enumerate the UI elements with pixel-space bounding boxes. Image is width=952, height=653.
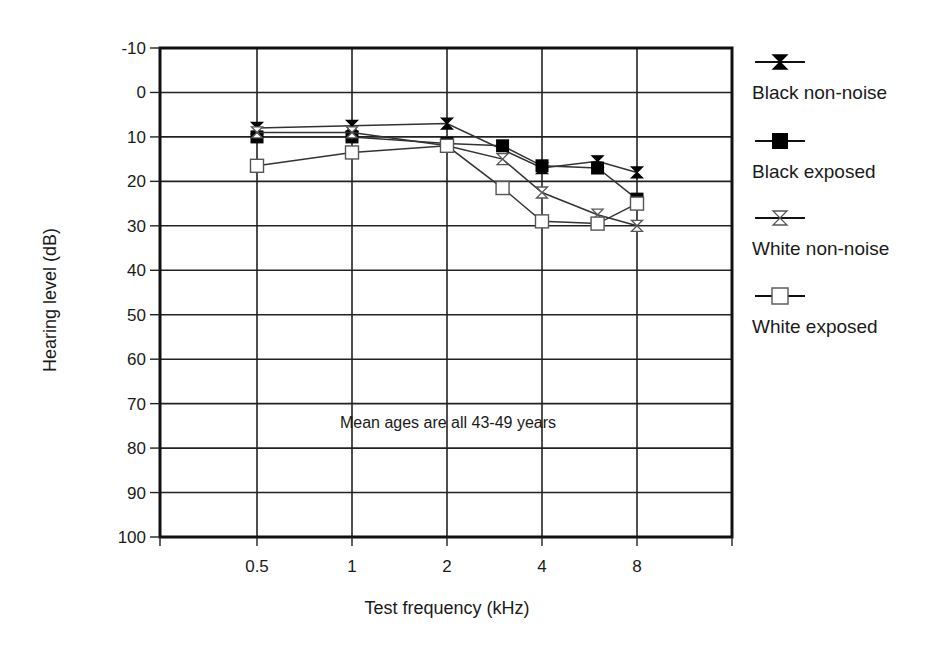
open-square-marker-icon	[631, 197, 644, 210]
y-tick-label: 100	[118, 528, 146, 547]
x-tick-label: 4	[537, 557, 546, 576]
y-tick-label: 60	[127, 350, 146, 369]
x-tick-label: 1	[347, 557, 356, 576]
legend-label: White non-noise	[752, 238, 889, 259]
legend-label: Black non-noise	[752, 82, 887, 103]
legend-label: White exposed	[752, 316, 878, 337]
legend: Black non-noiseBlack exposedWhite non-no…	[752, 55, 889, 337]
legend-item: Black exposed	[752, 133, 876, 182]
open-square-marker-icon	[441, 139, 454, 152]
open-square-marker-icon	[251, 159, 264, 172]
legend-item: White non-noise	[752, 211, 889, 259]
y-tick-label: 50	[127, 306, 146, 325]
y-tick-label: 0	[137, 83, 146, 102]
hearing-level-chart: -100102030405060708090100 0.51248 Mean a…	[0, 0, 952, 653]
x-axis: 0.51248	[160, 537, 732, 576]
y-tick-label: -10	[121, 39, 146, 58]
x-axis-title: Test frequency (kHz)	[364, 598, 529, 618]
open-square-marker-icon	[346, 146, 359, 159]
y-axis-title: Hearing level (dB)	[40, 228, 60, 372]
open-square-marker-icon	[772, 288, 788, 304]
open-square-marker-icon	[496, 182, 509, 195]
open-square-marker-icon	[536, 215, 549, 228]
filled-square-marker-icon	[536, 159, 549, 172]
chart-annotation: Mean ages are all 43-49 years	[340, 414, 556, 431]
y-tick-label: 10	[127, 128, 146, 147]
y-tick-label: 20	[127, 172, 146, 191]
x-tick-label: 0.5	[245, 557, 269, 576]
legend-item: White exposed	[752, 288, 878, 337]
open-square-marker-icon	[591, 217, 604, 230]
x-tick-label: 8	[632, 557, 641, 576]
y-tick-label: 30	[127, 217, 146, 236]
open-hourglass-marker-icon	[497, 154, 508, 165]
y-axis: -100102030405060708090100	[118, 39, 160, 547]
y-tick-label: 80	[127, 439, 146, 458]
y-tick-label: 40	[127, 261, 146, 280]
x-tick-label: 2	[442, 557, 451, 576]
open-hourglass-marker-icon	[537, 187, 548, 198]
legend-label: Black exposed	[752, 161, 876, 182]
filled-square-marker-icon	[772, 133, 788, 149]
filled-hourglass-marker-icon	[632, 167, 643, 178]
y-tick-label: 90	[127, 484, 146, 503]
filled-square-marker-icon	[591, 162, 604, 175]
y-tick-label: 70	[127, 395, 146, 414]
filled-square-marker-icon	[496, 139, 509, 152]
legend-item: Black non-noise	[752, 55, 887, 103]
